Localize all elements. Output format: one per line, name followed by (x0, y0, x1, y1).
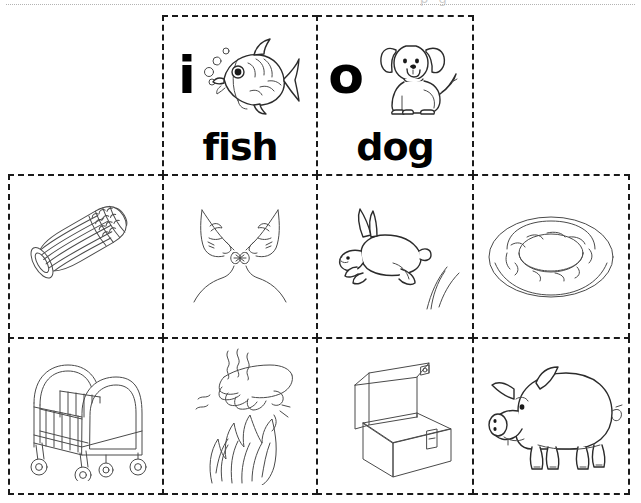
pic-ring[interactable] (472, 174, 630, 339)
dog-icon (366, 34, 462, 118)
pic-kiss[interactable] (162, 174, 318, 339)
pig-icon (478, 355, 624, 477)
cropped-heading-artifact: p g (0, 0, 641, 6)
hot-icon (178, 347, 302, 485)
ring-icon (481, 201, 621, 313)
pic-hot[interactable] (162, 337, 318, 495)
card-i-fish[interactable]: i (162, 15, 318, 176)
pic-box[interactable] (316, 337, 474, 495)
letter-i: i (178, 52, 196, 99)
corn-icon (21, 202, 151, 312)
top-dotted-rule (6, 4, 635, 5)
pic-rabbit[interactable] (316, 174, 474, 339)
rabbit-icon (327, 201, 463, 313)
kiss-icon (176, 198, 304, 316)
card-o-dog[interactable]: o (316, 15, 474, 176)
letter-o: o (328, 52, 364, 99)
heading-descender-text: p g (420, 0, 450, 6)
fish-icon (198, 37, 302, 115)
pic-crib[interactable] (8, 337, 164, 495)
word-fish: fish (202, 128, 277, 170)
crib-icon (20, 351, 152, 481)
word-dog: dog (356, 128, 434, 170)
pic-pig[interactable] (472, 337, 630, 495)
pic-corn[interactable] (8, 174, 164, 339)
box-icon (329, 351, 461, 481)
